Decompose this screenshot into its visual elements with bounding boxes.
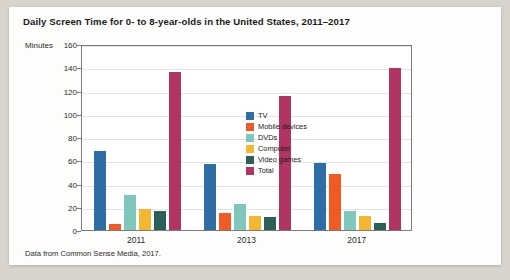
x-axis-tick-label: 2017 bbox=[327, 235, 387, 245]
bar bbox=[204, 164, 216, 230]
chart-title: Daily Screen Time for 0- to 8-year-olds … bbox=[23, 16, 350, 27]
y-axis-tick-mark bbox=[77, 138, 81, 139]
y-axis-tick-label: 120 bbox=[33, 87, 77, 96]
bar-group bbox=[303, 46, 413, 230]
y-axis-tick-label: 100 bbox=[33, 110, 77, 119]
y-axis-tick-mark bbox=[77, 161, 81, 162]
bar bbox=[219, 213, 231, 230]
y-axis-tick-label: 60 bbox=[33, 157, 77, 166]
y-axis-tick-mark bbox=[77, 45, 81, 46]
legend-swatch-icon bbox=[246, 134, 254, 142]
legend-swatch-icon bbox=[246, 123, 254, 131]
legend-item-label: Computer bbox=[258, 144, 290, 153]
y-axis-tick-mark bbox=[77, 185, 81, 186]
y-axis-tick-label: 0 bbox=[33, 227, 77, 236]
y-axis-tick-label: 40 bbox=[33, 180, 77, 189]
y-axis-tick-mark bbox=[77, 92, 81, 93]
bar bbox=[389, 68, 401, 230]
legend-item-label: Video games bbox=[258, 155, 301, 164]
x-axis-tick-label: 2011 bbox=[106, 235, 166, 245]
bar bbox=[344, 211, 356, 230]
y-axis-tick-mark bbox=[77, 115, 81, 116]
legend-swatch-icon bbox=[246, 167, 254, 175]
figure-card: Daily Screen Time for 0- to 8-year-olds … bbox=[9, 7, 501, 265]
legend-item[interactable]: TV bbox=[246, 110, 316, 121]
x-axis-tick-label: 2013 bbox=[217, 235, 277, 245]
bar bbox=[374, 223, 386, 230]
bar bbox=[109, 224, 121, 230]
y-axis-tick-label: 20 bbox=[33, 203, 77, 212]
legend-item-label: DVDs bbox=[258, 133, 277, 142]
bar bbox=[264, 217, 276, 230]
legend-swatch-icon bbox=[246, 112, 254, 120]
bar bbox=[154, 211, 166, 230]
bar bbox=[234, 204, 246, 230]
legend-item-label: Mobile devices bbox=[258, 122, 307, 131]
legend-item[interactable]: Video games bbox=[246, 154, 316, 165]
bar bbox=[169, 72, 181, 230]
legend-item[interactable]: Mobile devices bbox=[246, 121, 316, 132]
legend-item-label: Total bbox=[258, 166, 274, 175]
bar bbox=[359, 216, 371, 230]
bar bbox=[94, 151, 106, 230]
legend-item[interactable]: DVDs bbox=[246, 132, 316, 143]
bar bbox=[314, 163, 326, 230]
legend-item[interactable]: Total bbox=[246, 165, 316, 176]
y-axis-tick-label: 140 bbox=[33, 64, 77, 73]
y-axis-tick-mark bbox=[77, 68, 81, 69]
y-axis-tick-labels: 020406080100120140160 bbox=[29, 45, 77, 231]
bar bbox=[329, 174, 341, 230]
y-axis-tick-label: 160 bbox=[33, 41, 77, 50]
y-axis-tick-label: 80 bbox=[33, 134, 77, 143]
source-note: Data from Common Sense Media, 2017. bbox=[25, 249, 161, 258]
legend-swatch-icon bbox=[246, 156, 254, 164]
legend-item[interactable]: Computer bbox=[246, 143, 316, 154]
chart-legend: TVMobile devicesDVDsComputerVideo gamesT… bbox=[246, 110, 316, 176]
y-axis-tick-mark bbox=[77, 208, 81, 209]
y-axis-tick-mark bbox=[77, 231, 81, 232]
legend-item-label: TV bbox=[258, 111, 267, 120]
legend-swatch-icon bbox=[246, 145, 254, 153]
bar bbox=[124, 195, 136, 230]
bar bbox=[139, 209, 151, 230]
bar-group bbox=[82, 46, 192, 230]
bar bbox=[249, 216, 261, 230]
